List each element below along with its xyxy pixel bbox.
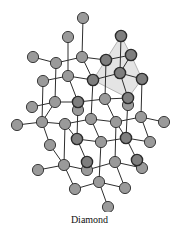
carbon-atom — [87, 74, 98, 85]
carbon-atom — [37, 75, 48, 86]
diagram-caption: Diamond — [0, 214, 179, 226]
carbon-atom — [109, 156, 120, 167]
carbon-atom — [32, 164, 43, 175]
carbon-atom — [58, 159, 69, 170]
carbon-atom — [76, 51, 87, 62]
carbon-atom — [115, 30, 126, 41]
carbon-atom — [114, 67, 125, 78]
carbon-atom — [120, 132, 131, 143]
carbon-atom — [135, 111, 146, 122]
carbon-atom — [100, 54, 111, 65]
carbon-atom — [93, 176, 104, 187]
carbon-atom — [95, 136, 106, 147]
carbon-atom — [158, 116, 169, 127]
carbon-atom — [11, 119, 22, 130]
carbon-atom — [144, 136, 155, 147]
carbon-atom — [26, 101, 37, 112]
carbon-atom — [71, 133, 82, 144]
carbon-atom — [99, 93, 110, 104]
diamond-lattice-diagram — [0, 0, 179, 212]
carbon-atom — [62, 31, 73, 42]
carbon-atom — [136, 73, 147, 84]
carbon-atom — [72, 96, 83, 107]
tetrahedron-highlight — [93, 36, 142, 98]
carbon-atom — [62, 70, 73, 81]
carbon-atom — [119, 182, 130, 193]
carbon-atom — [125, 49, 136, 60]
carbon-atom — [122, 92, 133, 103]
tetrahedron-shape — [93, 36, 142, 98]
carbon-atom — [102, 201, 113, 212]
atoms — [11, 12, 169, 212]
carbon-atom — [44, 139, 55, 150]
carbon-atom — [81, 156, 92, 167]
carbon-atom — [85, 113, 96, 124]
carbon-atom — [59, 118, 70, 129]
carbon-atom — [77, 12, 88, 23]
carbon-atom — [36, 116, 47, 127]
bond — [42, 81, 43, 122]
carbon-atom — [50, 57, 61, 68]
carbon-atom — [69, 183, 80, 194]
carbon-atom — [49, 96, 60, 107]
carbon-atom — [110, 116, 121, 127]
carbon-atom — [131, 154, 142, 165]
carbon-atom — [27, 51, 38, 62]
bond — [64, 124, 65, 165]
